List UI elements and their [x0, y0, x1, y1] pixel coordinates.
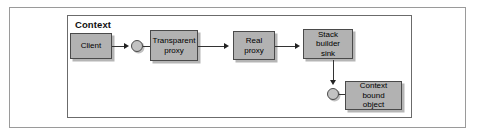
- node-real-proxy-label: Real proxy: [244, 36, 264, 55]
- node-transparent-proxy-label: Transparent proxy: [153, 36, 196, 55]
- connector-real-proxy-to-stack-builder-sink: [275, 46, 296, 47]
- node-context-bound-object-label-line1: Context bound: [348, 81, 399, 100]
- node-stack-builder-sink-label: Stack builder sink: [306, 30, 350, 59]
- node-stack-builder-sink-label-line1: Stack builder: [306, 30, 350, 49]
- node-client: Client: [70, 33, 112, 59]
- connector-stack-builder-sink-to-port: [333, 60, 334, 81]
- node-transparent-proxy: Transparent proxy: [150, 30, 198, 61]
- port-context-bound-object-icon: [327, 88, 339, 100]
- node-transparent-proxy-label-line1: Transparent: [153, 36, 196, 46]
- context-container-label: Context: [75, 19, 111, 30]
- node-real-proxy-label-line2: proxy: [244, 46, 264, 56]
- diagram-figure: Context Client Transparent proxy Real pr…: [0, 0, 477, 139]
- node-client-label: Client: [81, 41, 101, 51]
- port-transparent-proxy-icon: [131, 40, 143, 52]
- node-transparent-proxy-label-line2: proxy: [153, 46, 196, 56]
- arrowhead-client-to-port-icon: [124, 43, 129, 49]
- node-stack-builder-sink-label-line2: sink: [306, 49, 350, 59]
- node-context-bound-object-label: Context bound object: [348, 81, 399, 110]
- arrowhead-stack-builder-sink-icon: [295, 43, 300, 49]
- node-real-proxy-label-line1: Real: [244, 36, 264, 46]
- connector-transparent-proxy-to-real-proxy: [198, 46, 225, 47]
- arrowhead-real-proxy-icon: [224, 43, 229, 49]
- node-stack-builder-sink: Stack builder sink: [303, 29, 353, 59]
- node-real-proxy: Real proxy: [233, 31, 275, 60]
- node-context-bound-object-label-line2: object: [348, 100, 399, 110]
- arrowhead-context-bound-port-icon: [330, 80, 336, 85]
- node-context-bound-object: Context bound object: [345, 81, 402, 110]
